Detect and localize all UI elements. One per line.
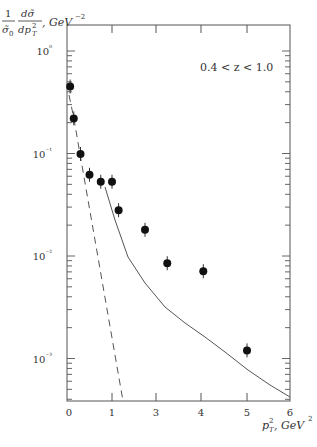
range-annotation: 0.4 < z < 1.0 [200, 61, 273, 74]
data-point [199, 267, 207, 275]
y-tick-label: 10⁻³ [33, 352, 52, 365]
data-point [243, 346, 251, 354]
svg-text:dp: dp [18, 24, 31, 35]
svg-text:p: p [262, 419, 269, 432]
y-tick-label: 10⁻² [33, 249, 52, 262]
y-axis-label: 1 σ̃ 0 dσ̃ dp 2 T , GeV −2 [2, 8, 85, 38]
data-point [97, 178, 105, 186]
svg-text:, GeV: , GeV [42, 16, 73, 29]
x-tick-label: 4 [198, 407, 204, 418]
axis-tick-labels: 01345610⁰10⁻¹10⁻²10⁻³ [33, 44, 293, 418]
svg-text:2: 2 [308, 415, 312, 423]
svg-text:dσ̃: dσ̃ [21, 8, 35, 19]
y-tick-label: 10⁰ [36, 44, 52, 57]
svg-text:T: T [32, 30, 38, 38]
svg-text:2: 2 [269, 417, 273, 425]
chart: 1 σ̃ 0 dσ̃ dp 2 T , GeV −2 01345610⁰10⁻¹… [0, 0, 317, 447]
data-point [108, 178, 116, 186]
x-tick-label: 0 [66, 407, 72, 418]
y-tick-label: 10⁻¹ [33, 147, 52, 160]
data-point [66, 83, 74, 91]
x-tick-label: 6 [287, 407, 293, 418]
x-tick-label: 1 [109, 407, 115, 418]
axis-ticks [67, 25, 290, 401]
svg-text:, GeV: , GeV [274, 419, 305, 432]
data-point [163, 259, 171, 267]
data-point [86, 171, 94, 179]
svg-text:−2: −2 [75, 13, 85, 21]
x-tick-label: 5 [244, 407, 250, 418]
data-point [115, 206, 123, 214]
solid-curve [105, 187, 290, 397]
dashed-curve [69, 95, 123, 401]
plot-frame [67, 25, 290, 401]
x-tick-label: 3 [153, 407, 159, 418]
data-points [66, 80, 251, 358]
svg-text:1: 1 [5, 8, 11, 19]
data-point [77, 150, 85, 158]
data-point [141, 226, 149, 234]
svg-text:0: 0 [9, 30, 13, 38]
data-point [70, 114, 78, 122]
svg-text:2: 2 [32, 22, 36, 30]
